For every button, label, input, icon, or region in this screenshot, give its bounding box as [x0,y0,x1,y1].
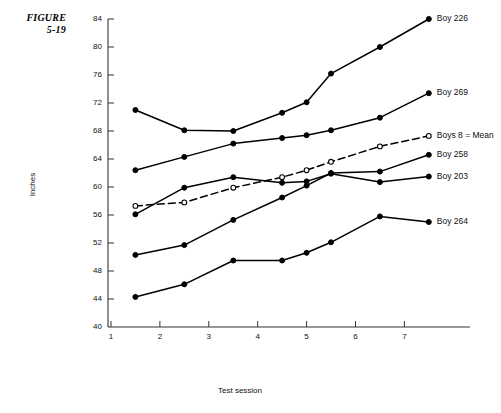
y-tick-label: 76 [80,70,102,79]
x-tick-label: 7 [396,332,412,341]
data-point-marker [304,250,309,255]
x-tick-label: 2 [152,332,168,341]
data-point-marker [280,136,285,141]
data-point-marker [426,17,431,22]
y-tick-label: 60 [80,182,102,191]
series-label-boy-226: Boy 226 [437,13,468,23]
data-point-marker [182,243,187,248]
y-tick-label: 68 [80,126,102,135]
data-point-marker [133,108,138,113]
data-point-marker [280,110,285,115]
data-point-marker [377,45,382,50]
data-point-marker [133,294,138,299]
x-tick-label: 6 [348,332,364,341]
data-point-marker [280,258,285,263]
data-point-marker [133,204,138,209]
data-point-marker [304,168,309,173]
data-point-marker [133,168,138,173]
y-tick-label: 80 [80,42,102,51]
y-tick-label: 72 [80,98,102,107]
series-label-boys-8-mean: Boys 8 = Mean [437,130,494,140]
x-tick-label: 3 [201,332,217,341]
data-point-marker [377,180,382,185]
data-point-marker [426,152,431,157]
data-point-marker [329,159,334,164]
y-tick-label: 52 [80,238,102,247]
series-label-boy-264: Boy 264 [437,216,468,226]
data-point-marker [133,212,138,217]
x-tick-label: 1 [103,332,119,341]
data-point-marker [329,128,334,133]
series-line [135,155,428,255]
y-tick-label: 64 [80,154,102,163]
data-point-marker [182,128,187,133]
data-point-marker [280,175,285,180]
data-point-marker [426,91,431,96]
figure-container: FIGURE 5-19 Inches Test session 40444852… [0,0,501,413]
x-tick-label: 4 [250,332,266,341]
y-tick-label: 40 [80,322,102,331]
data-point-marker [377,214,382,219]
data-point-marker [304,179,309,184]
chart-series [133,17,431,300]
data-point-marker [329,71,334,76]
data-point-marker [231,175,236,180]
data-point-marker [426,174,431,179]
data-point-marker [231,129,236,134]
y-tick-label: 44 [80,294,102,303]
y-axis-title: Inches [28,150,37,220]
data-point-marker [231,217,236,222]
data-point-marker [182,200,187,205]
data-point-marker [231,185,236,190]
data-point-marker [426,220,431,225]
data-point-marker [426,134,431,139]
data-point-marker [377,169,382,174]
data-point-marker [304,133,309,138]
data-point-marker [329,240,334,245]
series-line [135,216,428,297]
series-label-boy-258: Boy 258 [437,149,468,159]
y-tick-label: 84 [80,14,102,23]
line-chart-plot [0,0,501,413]
data-point-marker [182,185,187,190]
chart-axes [108,19,470,327]
data-point-marker [329,171,334,176]
data-point-marker [231,141,236,146]
data-point-marker [231,258,236,263]
y-tick-label: 56 [80,210,102,219]
x-axis-title: Test session [180,386,300,395]
x-tick-label: 5 [299,332,315,341]
data-point-marker [377,115,382,120]
data-point-marker [182,154,187,159]
data-point-marker [304,100,309,105]
data-point-marker [182,282,187,287]
data-point-marker [280,180,285,185]
data-point-marker [133,252,138,257]
data-point-marker [378,144,383,149]
series-line [135,93,428,170]
y-tick-label: 48 [80,266,102,275]
series-label-boy-269: Boy 269 [437,87,468,97]
data-point-marker [280,195,285,200]
series-label-boy-203: Boy 203 [437,171,468,181]
